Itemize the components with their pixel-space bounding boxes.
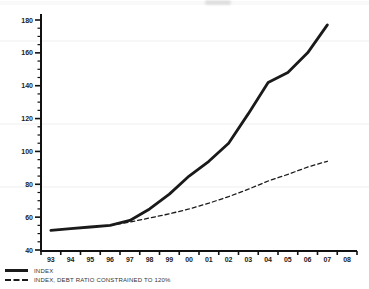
legend-label: INDEX, DEBT RATIO CONSTRAINED TO 120% <box>34 277 171 283</box>
chart-svg: 4060801001201401601809394959697989900010… <box>0 0 369 289</box>
legend-item-constrained: INDEX, DEBT RATIO CONSTRAINED TO 120% <box>5 275 171 284</box>
dashed-line-swatch <box>5 279 28 281</box>
legend-item-index: INDEX <box>5 266 171 275</box>
x-axis-tick-label: 06 <box>304 256 312 263</box>
series-line-index <box>51 25 328 230</box>
x-axis-tick-label: 94 <box>67 256 75 263</box>
legend-label: INDEX <box>34 268 53 274</box>
x-axis-tick-label: 99 <box>165 256 173 263</box>
y-axis-tick-label: 160 <box>21 49 33 56</box>
x-axis-tick-label: 08 <box>343 256 351 263</box>
x-axis-tick-label: 04 <box>264 256 272 263</box>
x-axis-tick-label: 96 <box>106 256 114 263</box>
x-axis-tick-label: 02 <box>225 256 233 263</box>
x-axis-tick-label: 93 <box>47 256 55 263</box>
chart-page: 4060801001201401601809394959697989900010… <box>0 0 369 289</box>
solid-line-swatch <box>5 269 28 272</box>
x-axis-tick-label: 07 <box>323 256 331 263</box>
series-line-constrained <box>110 161 327 225</box>
y-axis-tick-label: 140 <box>21 82 33 89</box>
x-axis-tick-label: 00 <box>185 256 193 263</box>
y-axis-tick-label: 60 <box>25 214 33 221</box>
y-axis-tick-label: 120 <box>21 115 33 122</box>
x-axis-tick-label: 97 <box>126 256 134 263</box>
y-axis-tick-label: 80 <box>25 181 33 188</box>
x-axis-tick-label: 01 <box>205 256 213 263</box>
x-axis-tick-label: 98 <box>146 256 154 263</box>
y-axis-tick-label: 100 <box>21 148 33 155</box>
x-axis-tick-label: 03 <box>244 256 252 263</box>
x-axis-tick-label: 05 <box>284 256 292 263</box>
chart-legend: INDEX INDEX, DEBT RATIO CONSTRAINED TO 1… <box>5 266 171 284</box>
y-axis-tick-label: 40 <box>25 247 33 254</box>
y-axis-tick-label: 180 <box>21 17 33 24</box>
x-axis-tick-label: 95 <box>86 256 94 263</box>
